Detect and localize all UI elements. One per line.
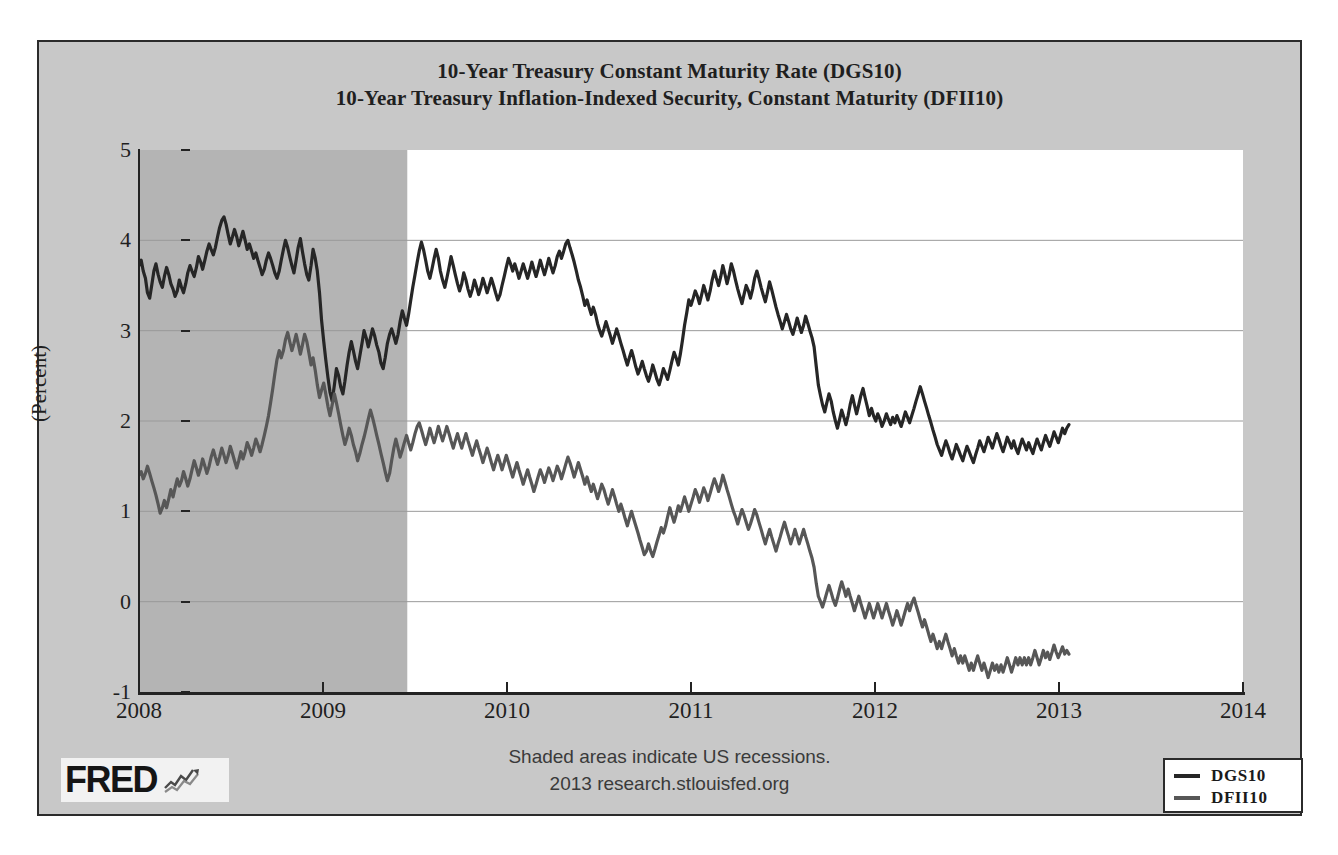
x-tick-mark	[874, 682, 876, 693]
x-tick-label: 2013	[1036, 698, 1082, 724]
legend-label: DGS10	[1211, 766, 1266, 786]
x-tick-label: 2010	[484, 698, 530, 724]
x-tick-mark	[506, 682, 508, 693]
y-tick-mark	[181, 239, 190, 241]
chart-title-line2: 10-Year Treasury Inflation-Indexed Secur…	[39, 85, 1300, 112]
y-axis-line	[138, 149, 140, 694]
fred-chart-screenshot: 10-Year Treasury Constant Maturity Rate …	[0, 0, 1338, 855]
y-tick-label: 1	[97, 498, 131, 524]
x-tick-mark	[1058, 682, 1060, 693]
x-tick-label: 2011	[668, 698, 713, 724]
y-tick-mark	[181, 420, 190, 422]
y-tick-label: 4	[97, 227, 131, 253]
y-tick-label: 3	[97, 318, 131, 344]
x-tick-label: 2009	[300, 698, 346, 724]
chart-frame: 10-Year Treasury Constant Maturity Rate …	[37, 40, 1302, 816]
y-tick-mark	[181, 510, 190, 512]
fred-logo-text: FRED	[65, 762, 157, 798]
y-axis-label: (Percent)	[27, 345, 52, 422]
chart-canvas	[139, 150, 1243, 692]
fred-logo: FRED	[61, 758, 229, 802]
y-tick-mark	[181, 601, 190, 603]
x-tick-mark	[322, 682, 324, 693]
legend-item[interactable]: DGS10	[1165, 765, 1301, 787]
y-tick-label: 2	[97, 408, 131, 434]
legend-color-swatch	[1174, 796, 1200, 800]
legend-label: DFII10	[1211, 788, 1268, 808]
x-tick-label: 2012	[852, 698, 898, 724]
y-tick-mark	[181, 691, 190, 693]
y-tick-mark	[181, 149, 190, 151]
y-tick-label: 5	[97, 137, 131, 163]
page-title: 10-Year Treasury Constant Maturity Rate …	[39, 58, 1300, 112]
x-tick-label: 2008	[116, 698, 162, 724]
chart-legend[interactable]: DGS10DFII10	[1163, 758, 1303, 813]
y-tick-label: 0	[97, 589, 131, 615]
chart-title-line1: 10-Year Treasury Constant Maturity Rate …	[437, 59, 902, 83]
y-tick-mark	[181, 330, 190, 332]
x-tick-mark	[1242, 682, 1244, 693]
chart-line-icon	[162, 766, 202, 794]
plot-area	[139, 150, 1243, 692]
x-axis-ticks: 2008200920102011201220132014	[39, 698, 1300, 732]
x-tick-mark	[690, 682, 692, 693]
legend-color-swatch	[1174, 774, 1200, 778]
x-tick-label: 2014	[1220, 698, 1266, 724]
legend-item[interactable]: DFII10	[1165, 787, 1301, 809]
